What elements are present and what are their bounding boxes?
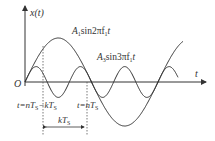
fundamental-label: A1sin2πf1t: [71, 26, 111, 37]
left-marker-label: t=nTS−kTS: [17, 100, 57, 111]
x-axis-label: t: [195, 68, 198, 79]
interval-label: kTS: [58, 115, 70, 126]
right-marker-label: t=nTS: [77, 100, 98, 111]
signal-diagram: x(t) t O A1sin2πf1t A3sin3πf1t t=nTS−kTS…: [0, 0, 215, 141]
third-harmonic-label: A3sin3πf1t: [96, 52, 136, 63]
origin-label: O: [14, 78, 21, 89]
y-axis-label: x(t): [29, 7, 45, 19]
